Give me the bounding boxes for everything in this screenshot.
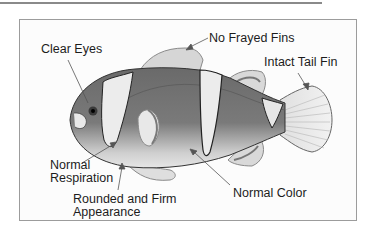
fish-illustration (0, 0, 375, 245)
no-frayed-fins-pointer (190, 38, 208, 47)
label-intact-tail-fin: Intact Tail Fin (264, 55, 337, 69)
rounded-pointer (118, 167, 122, 190)
label-no-frayed-fins: No Frayed Fins (209, 31, 294, 45)
label-normal-color: Normal Color (233, 186, 307, 200)
tail-fin (280, 86, 332, 152)
dorsal-fin (140, 48, 203, 70)
label-clear-eyes: Clear Eyes (41, 42, 102, 56)
label-rounded-line1: Rounded and Firm (73, 192, 177, 206)
label-rounded-line2: Appearance (73, 205, 140, 219)
label-normal-respiration-line2: Respiration (50, 171, 113, 185)
label-normal-respiration-line1: Normal (50, 158, 90, 172)
